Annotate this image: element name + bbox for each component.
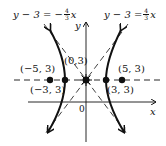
label-point-5-3: (5, 3) xyxy=(118,64,145,74)
asymptote-right-lhs: y − 3 = xyxy=(104,9,142,21)
x-axis-label: x xyxy=(150,107,156,117)
asymptote-left-var: x xyxy=(71,9,77,21)
fraction-denominator: 3 xyxy=(65,15,69,21)
focus-right-point xyxy=(119,77,125,83)
center-star-icon xyxy=(80,74,92,86)
asymptote-right-equation: y − 3 = 4 3 x xyxy=(104,8,156,21)
fraction-denominator: 3 xyxy=(144,15,148,21)
focus-left-point xyxy=(47,77,53,83)
label-point-neg5-3: (−5, 3) xyxy=(20,64,55,74)
vertex-right-point xyxy=(103,77,109,83)
asymptote-left-equation: y − 3 = − 4 3 x xyxy=(13,8,76,21)
origin-label: 0 xyxy=(79,104,85,114)
label-point-3-3: (3, 3) xyxy=(107,85,134,95)
asymptote-right-fraction: 4 3 xyxy=(143,8,149,21)
label-point-neg3-3: (−3, 3) xyxy=(30,85,65,95)
asymptote-left-fraction: 4 3 xyxy=(64,8,70,21)
y-axis-label: y xyxy=(75,21,81,31)
asymptote-right-var: x xyxy=(150,9,156,21)
asymptote-left-lhs: y − 3 = − xyxy=(13,9,63,21)
label-point-0-3: (0,3) xyxy=(64,56,88,66)
vertex-left-point xyxy=(62,77,68,83)
